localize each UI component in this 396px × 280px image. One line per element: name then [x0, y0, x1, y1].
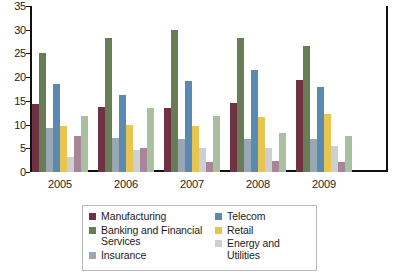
y-axis-tick-label: 30 — [2, 24, 26, 35]
legend-swatch-icon — [215, 227, 222, 234]
bar — [60, 126, 67, 172]
bar — [206, 162, 213, 172]
bar-group — [296, 6, 352, 172]
bar — [338, 162, 345, 172]
bar-group — [98, 6, 154, 172]
legend-swatch-icon — [215, 240, 222, 247]
bar — [199, 148, 206, 172]
chart-legend: ManufacturingBanking and Financial Servi… — [82, 205, 317, 271]
bar — [185, 81, 192, 172]
bar — [331, 146, 338, 172]
x-axis-tick-label: 2009 — [304, 178, 344, 190]
bar — [119, 95, 126, 172]
bar — [126, 125, 133, 172]
y-axis-tick-label: 25 — [2, 48, 26, 59]
bar — [237, 38, 244, 172]
y-axis-tick-mark — [26, 125, 30, 126]
y-axis-tick-label: 20 — [2, 72, 26, 83]
bar — [192, 126, 199, 172]
bar — [279, 133, 286, 172]
legend-item-label: Banking and Financial Services — [101, 225, 215, 248]
legend-item-label: Manufacturing — [101, 211, 166, 223]
x-axis-tick-label: 2007 — [172, 178, 212, 190]
bar — [213, 116, 220, 172]
bar — [147, 108, 154, 173]
legend-swatch-icon — [215, 213, 222, 220]
y-axis-tick-labels: 35302520151050 — [0, 6, 26, 172]
right-axis-line — [386, 6, 388, 172]
legend-item-label: Energy and Utilities — [227, 238, 312, 261]
bar-group — [32, 6, 88, 172]
bar — [112, 138, 119, 172]
bar — [345, 136, 352, 172]
bar — [67, 157, 74, 172]
legend-swatch-icon — [89, 252, 96, 259]
legend-item[interactable]: Energy and Utilities — [215, 238, 312, 261]
legend-item[interactable]: Retail — [215, 225, 312, 237]
bar — [53, 84, 60, 172]
y-axis-tick-mark — [26, 101, 30, 102]
bar — [244, 139, 251, 172]
x-axis-tick-labels: 20052006200720082009 — [32, 178, 356, 196]
legend-item[interactable]: Telecom — [215, 211, 312, 223]
bar — [171, 30, 178, 172]
y-axis-tick-mark — [26, 148, 30, 149]
legend-swatch-icon — [89, 213, 96, 220]
bars-layer — [32, 6, 356, 172]
bar-group — [164, 6, 220, 172]
bar-group-gap — [154, 171, 164, 172]
y-axis-tick-mark — [26, 6, 30, 7]
bar — [140, 148, 147, 172]
bar — [105, 38, 112, 172]
bar — [39, 53, 46, 172]
legend-item[interactable]: Manufacturing — [89, 211, 215, 223]
y-axis-tick-mark — [26, 30, 30, 31]
y-axis-tick-mark — [26, 172, 30, 173]
legend-item-label: Insurance — [101, 250, 146, 262]
bar-group-gap — [286, 171, 296, 172]
legend-item-label: Telecom — [227, 211, 265, 223]
x-axis-tick-label: 2005 — [40, 178, 80, 190]
bar — [74, 136, 81, 172]
bar — [296, 80, 303, 172]
bar — [258, 117, 265, 172]
y-axis-tick-label: 10 — [2, 119, 26, 130]
legend-column-right: TelecomRetailEnergy and Utilities — [215, 211, 312, 266]
bar — [32, 104, 39, 172]
bar — [251, 70, 258, 172]
bar-group-gap — [220, 171, 230, 172]
bar — [178, 139, 185, 172]
bar — [230, 103, 237, 172]
bar — [133, 150, 140, 172]
y-axis-tick-label: 35 — [2, 1, 26, 12]
grouped-bar-chart: 35302520151050 20052006200720082009 Manu… — [0, 0, 396, 280]
bar-group-gap — [88, 171, 98, 172]
bar — [317, 87, 324, 172]
x-axis-tick-label: 2006 — [106, 178, 146, 190]
bar — [272, 161, 279, 172]
bar — [303, 46, 310, 172]
y-axis-tick-label: 0 — [2, 167, 26, 178]
legend-column-left: ManufacturingBanking and Financial Servi… — [89, 211, 215, 266]
y-axis-tick-label: 5 — [2, 143, 26, 154]
bar — [310, 139, 317, 172]
legend-item[interactable]: Banking and Financial Services — [89, 225, 215, 248]
plot-area: 35302520151050 20052006200720082009 — [0, 6, 396, 202]
x-axis-tick-label: 2008 — [238, 178, 278, 190]
legend-item-label: Retail — [227, 225, 253, 237]
bar — [81, 116, 88, 172]
bar — [265, 148, 272, 172]
bar — [98, 107, 105, 172]
legend-swatch-icon — [89, 227, 96, 234]
y-axis-tick-mark — [26, 53, 30, 54]
bar — [324, 114, 331, 172]
bar — [46, 128, 53, 172]
y-axis-tick-label: 15 — [2, 95, 26, 106]
bar — [164, 108, 171, 172]
y-axis-tick-mark — [26, 77, 30, 78]
legend-item[interactable]: Insurance — [89, 250, 215, 262]
bar-group — [230, 6, 286, 172]
